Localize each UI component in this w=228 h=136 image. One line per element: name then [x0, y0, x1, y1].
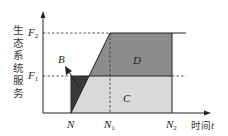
tick-n1-sub: 1: [111, 124, 115, 132]
y-axis-arrow-icon: [41, 11, 46, 18]
ecosystem-service-diagram: [0, 0, 228, 136]
region-d-label: D: [133, 55, 141, 66]
y-axis-label: 生态系统服务: [11, 24, 25, 99]
x-axis-label-text: 时间: [191, 120, 211, 131]
tick-n: N: [67, 119, 74, 130]
tick-f1: F1: [28, 70, 38, 83]
tick-f2-sub: 2: [35, 32, 39, 40]
region-b-label: B: [58, 54, 65, 65]
x-axis-label: 时间t: [191, 118, 214, 132]
tick-f2-name: F: [28, 26, 35, 38]
tick-f1-sub: 1: [35, 75, 39, 83]
region-c-label: C: [123, 93, 130, 104]
b-pointer-arrow-icon: [65, 66, 72, 75]
tick-n1: N1: [104, 119, 115, 132]
tick-f2: F2: [28, 27, 38, 40]
tick-n-name: N: [67, 118, 74, 130]
x-axis-arrow-icon: [204, 111, 211, 116]
tick-f1-name: F: [28, 69, 35, 81]
region-d: [89, 33, 172, 76]
x-axis-variable: t: [211, 119, 214, 131]
tick-n2-sub: 2: [173, 124, 177, 132]
tick-n2: N2: [166, 119, 177, 132]
